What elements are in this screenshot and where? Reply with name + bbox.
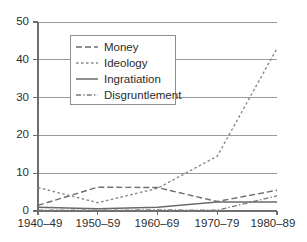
legend-swatch-solid-icon <box>76 74 98 84</box>
x-axis-label-1940-49: 1940–49 <box>7 217 73 229</box>
y-axis-label-0: 0 <box>1 204 29 216</box>
y-axis-ticks <box>33 22 38 211</box>
legend-item-money: Money <box>71 39 175 55</box>
line-chart: 50 40 30 20 10 0 1940–49 1950–59 1960–69… <box>0 0 307 242</box>
legend-label-disgruntlement: Disgruntlement <box>104 89 181 101</box>
y-axis-label-10: 10 <box>1 166 29 178</box>
legend-item-ingratiation: Ingratiation <box>71 71 175 87</box>
x-axis-label-1980-89: 1980–89 <box>240 217 306 229</box>
series-line-ingratiation <box>38 202 277 209</box>
x-axis-label-1960-69: 1960–69 <box>124 217 190 229</box>
y-axis-label-50: 50 <box>1 15 29 27</box>
y-axis-label-40: 40 <box>1 53 29 65</box>
chart-legend: Money Ideology Ingratiation Disgruntleme… <box>70 35 176 105</box>
x-axis-label-1950-59: 1950–59 <box>65 217 131 229</box>
legend-label-ingratiation: Ingratiation <box>104 73 161 85</box>
legend-label-money: Money <box>104 41 139 53</box>
legend-item-ideology: Ideology <box>71 55 175 71</box>
legend-swatch-dashed-icon <box>76 42 98 52</box>
legend-swatch-dotted-icon <box>76 58 98 68</box>
y-axis-label-20: 20 <box>1 128 29 140</box>
y-axis-label-30: 30 <box>1 91 29 103</box>
legend-label-ideology: Ideology <box>104 57 147 69</box>
legend-swatch-dash-dot-icon <box>76 90 98 100</box>
legend-item-disgruntlement: Disgruntlement <box>71 87 175 103</box>
